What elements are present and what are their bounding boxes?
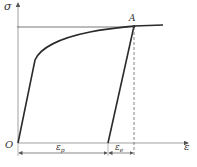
plastic-strain-label: εp [56, 142, 65, 154]
loading-curve [18, 25, 163, 143]
stress-strain-diagram: σ ε O A εp εe [0, 0, 197, 167]
unloading-line [108, 26, 134, 143]
origin-label: O [5, 139, 13, 150]
plastic-strain-subscript: p [61, 146, 65, 154]
point-a-label: A [128, 13, 136, 23]
elastic-strain-label: εe [115, 142, 124, 153]
x-axis-label: ε [184, 141, 189, 152]
y-axis-label: σ [4, 0, 12, 13]
point-a-marker [133, 25, 136, 28]
elastic-strain-subscript: e [120, 146, 124, 153]
